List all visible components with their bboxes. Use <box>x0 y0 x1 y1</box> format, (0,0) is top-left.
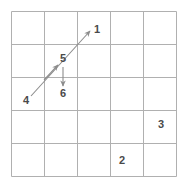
figure-canvas: 156432 <box>0 0 189 186</box>
grid-diagram: 156432 <box>0 0 189 186</box>
label-4: 4 <box>23 94 30 106</box>
label-5: 5 <box>60 52 66 64</box>
label-2: 2 <box>119 154 125 166</box>
label-3: 3 <box>158 118 164 130</box>
label-6: 6 <box>60 87 66 99</box>
grid-lines <box>12 12 177 177</box>
label-1: 1 <box>94 23 100 35</box>
